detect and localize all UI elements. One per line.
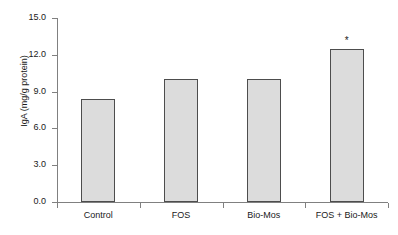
y-tick-label: 3.0 xyxy=(6,160,46,169)
x-tick xyxy=(57,203,58,208)
y-tick xyxy=(52,92,57,93)
x-axis-label: FOS xyxy=(140,210,223,220)
y-tick-label: 0.0 xyxy=(6,197,46,206)
y-tick-label: 15.0 xyxy=(6,13,46,22)
x-tick xyxy=(305,203,306,208)
bar-chart: IgA (mg/g protein) 15.012.09.06.03.00.0 … xyxy=(0,0,398,235)
y-tick xyxy=(52,128,57,129)
bar-bio-mos xyxy=(247,79,281,202)
bar-fos-bio-mos xyxy=(330,49,364,202)
y-tick-label: 9.0 xyxy=(6,87,46,96)
x-axis-label: Control xyxy=(57,210,140,220)
bar-fos xyxy=(164,79,198,202)
y-axis-line xyxy=(57,18,58,203)
x-axis-label: FOS + Bio-Mos xyxy=(305,210,388,220)
x-tick xyxy=(140,203,141,208)
bar-control xyxy=(81,99,115,202)
x-tick xyxy=(388,203,389,208)
y-tick-label: 6.0 xyxy=(6,123,46,132)
y-tick xyxy=(52,165,57,166)
y-tick-label: 12.0 xyxy=(6,50,46,59)
y-tick xyxy=(52,18,57,19)
y-tick xyxy=(52,55,57,56)
x-axis-label: Bio-Mos xyxy=(223,210,306,220)
significance-marker: * xyxy=(337,36,357,46)
x-tick xyxy=(223,203,224,208)
